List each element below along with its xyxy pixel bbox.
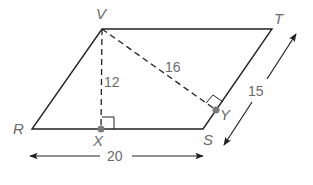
label-y: Y [220,106,231,123]
label-v: V [96,5,108,22]
point-y [213,107,220,114]
altitude-vx [101,29,102,129]
label-s: S [203,131,213,148]
measure-16: 16 [165,59,181,75]
parallelogram-rstv [32,29,272,129]
measure-12: 12 [104,74,120,90]
parallelogram-diagram: V T R S X Y 12 16 20 15 [0,0,313,185]
measure-15: 15 [248,83,264,99]
label-r: R [13,120,24,137]
label-x: X [92,132,104,149]
label-t: T [274,10,285,27]
measure-20: 20 [107,148,123,164]
altitude-vy [102,29,216,110]
dimension-arrow-side-up [267,34,296,79]
right-angle-y [206,95,223,103]
